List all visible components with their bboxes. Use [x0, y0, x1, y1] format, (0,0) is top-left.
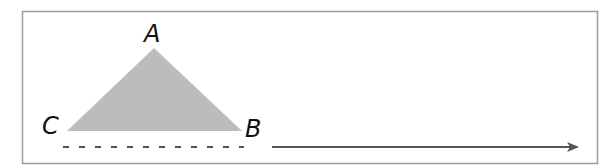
label-a: A — [142, 20, 160, 48]
diagram-canvas: A C B — [0, 0, 615, 165]
label-c: C — [42, 112, 59, 140]
label-b: B — [245, 115, 261, 143]
diagram-frame — [23, 12, 598, 164]
